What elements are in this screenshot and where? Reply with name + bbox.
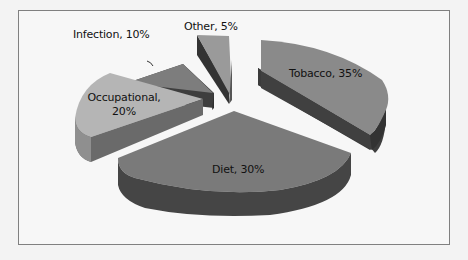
label-infection: Infection, 10% — [73, 28, 150, 42]
label-occupational: Occupational, 20% — [84, 91, 164, 119]
label-diet: Diet, 30% — [212, 163, 264, 177]
pie-chart-3d — [0, 0, 468, 260]
label-occupational-line1: Occupational, — [84, 91, 164, 105]
label-tobacco: Tobacco, 35% — [289, 67, 362, 81]
infection-leader-line — [147, 61, 153, 66]
label-other: Other, 5% — [184, 20, 238, 34]
label-occupational-line2: 20% — [84, 105, 164, 119]
